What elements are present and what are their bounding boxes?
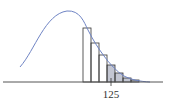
tick-label-125: 125: [96, 88, 126, 100]
normal-approximation-chart: [0, 0, 169, 107]
normal-curve: [20, 11, 150, 82]
